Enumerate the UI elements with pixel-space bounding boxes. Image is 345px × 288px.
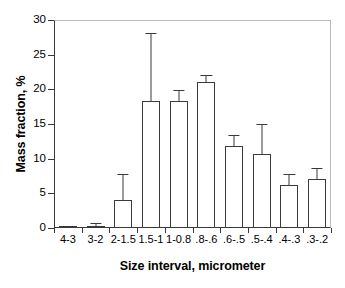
bar-group bbox=[248, 20, 276, 228]
bar bbox=[225, 146, 243, 228]
x-axis-tick bbox=[276, 228, 277, 233]
y-axis-tick-label: 25 bbox=[6, 49, 46, 61]
bar bbox=[87, 226, 105, 228]
error-bar-line bbox=[261, 125, 262, 154]
x-axis-tick bbox=[220, 228, 221, 233]
x-axis-tick bbox=[248, 228, 249, 233]
bar-group bbox=[193, 20, 221, 228]
error-bar-line bbox=[178, 91, 179, 101]
x-axis-tick bbox=[331, 228, 332, 233]
bar-group bbox=[109, 20, 137, 228]
x-axis-tick-label: 2-1.5 bbox=[109, 234, 137, 245]
bar bbox=[280, 185, 298, 228]
x-axis-tick-label: .5-.4 bbox=[248, 234, 276, 245]
x-axis-tick-label: 4-3 bbox=[54, 234, 82, 245]
error-bar-cap bbox=[284, 174, 295, 175]
error-bar-cap bbox=[201, 75, 212, 76]
x-axis-title: Size interval, micrometer bbox=[54, 259, 331, 273]
x-axis-tick-label: 1-0.8 bbox=[165, 234, 193, 245]
x-axis-tick-label: 3-2 bbox=[82, 234, 110, 245]
bar bbox=[197, 82, 215, 228]
bar-group bbox=[276, 20, 304, 228]
y-axis-tick-label: 0 bbox=[6, 222, 46, 234]
y-axis-tick-label: 15 bbox=[6, 118, 46, 130]
bar-group bbox=[137, 20, 165, 228]
x-axis-tick bbox=[303, 228, 304, 233]
bar-group bbox=[303, 20, 331, 228]
error-bar-line bbox=[317, 169, 318, 179]
bar-group bbox=[220, 20, 248, 228]
error-bar-line bbox=[95, 224, 96, 226]
x-axis-tick-label: .4-.3 bbox=[276, 234, 304, 245]
x-axis-tick bbox=[82, 228, 83, 233]
bar-group bbox=[54, 20, 82, 228]
error-bar-cap bbox=[256, 124, 267, 125]
bar bbox=[170, 101, 188, 228]
error-bar-line bbox=[206, 76, 207, 82]
bar bbox=[308, 179, 326, 228]
y-axis-tick-label: 30 bbox=[6, 14, 46, 26]
error-bar-cap bbox=[145, 33, 156, 34]
error-bar-line bbox=[289, 175, 290, 185]
bar bbox=[114, 200, 132, 228]
y-axis-tick-label: 20 bbox=[6, 83, 46, 95]
x-axis-tick bbox=[54, 228, 55, 233]
x-axis-tick bbox=[193, 228, 194, 233]
error-bar-cap bbox=[228, 135, 239, 136]
y-axis-tick-label: 5 bbox=[6, 187, 46, 199]
y-axis-tick-label: 10 bbox=[6, 153, 46, 165]
bar bbox=[59, 226, 77, 228]
x-axis-tick-label: 1.5-1 bbox=[137, 234, 165, 245]
error-bar-cap bbox=[312, 168, 323, 169]
error-bar-cap bbox=[118, 174, 129, 175]
error-bar-cap bbox=[90, 223, 101, 224]
error-bar-cap bbox=[173, 90, 184, 91]
bar bbox=[142, 101, 160, 228]
error-bar-line bbox=[234, 136, 235, 146]
bar-chart: Mass fraction, % 051015202530 4-33-22-1.… bbox=[0, 0, 345, 288]
bar bbox=[253, 154, 271, 228]
x-axis-tick-label: .8-.6 bbox=[193, 234, 221, 245]
bar-group bbox=[165, 20, 193, 228]
error-bar-line bbox=[150, 34, 151, 101]
x-axis-tick-label: .6-.5 bbox=[220, 234, 248, 245]
error-bar-line bbox=[123, 175, 124, 200]
bar-series bbox=[54, 20, 331, 228]
x-axis-tick-label: .3-.2 bbox=[303, 234, 331, 245]
bar-group bbox=[82, 20, 110, 228]
